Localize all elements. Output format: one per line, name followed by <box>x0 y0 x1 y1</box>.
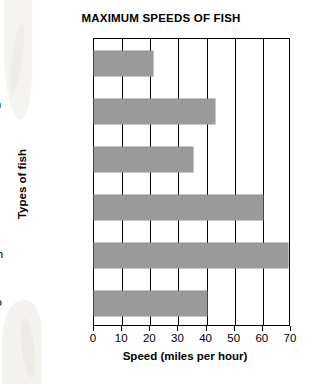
category-label-line: Flying <box>0 146 86 159</box>
bar-row <box>94 39 153 87</box>
bar <box>94 291 207 316</box>
x-axis-tick-label: 70 <box>275 332 305 344</box>
category-label: Marlin <box>0 200 86 213</box>
x-axis-tick-label: 10 <box>106 332 136 344</box>
bar <box>94 147 193 172</box>
x-axis-tick-label: 0 <box>78 332 108 344</box>
category-label-line: tuna <box>0 110 86 123</box>
category-label: Sailfish <box>0 248 86 261</box>
x-axis-tick <box>262 326 263 331</box>
category-label-line: Blue <box>0 50 86 63</box>
bar-row <box>94 183 263 231</box>
x-axis-tick <box>177 326 178 331</box>
category-label-line: Sailfish <box>0 248 86 261</box>
category-label-line: Bluefin <box>0 98 86 111</box>
x-axis-tick <box>234 326 235 331</box>
bar <box>94 99 215 124</box>
x-axis-tick-label: 40 <box>191 332 221 344</box>
bar <box>94 51 153 76</box>
category-label: Flyingfish <box>0 146 86 171</box>
x-axis-tick <box>290 326 291 331</box>
x-axis-tick <box>206 326 207 331</box>
category-label: Bluewhale <box>0 50 86 75</box>
category-label-line: Marlin <box>0 200 86 213</box>
bar-row <box>94 279 207 327</box>
x-axis-tick-label: 30 <box>162 332 192 344</box>
category-label-line: whale <box>0 62 86 75</box>
bar-row <box>94 135 193 183</box>
category-label-line: fish <box>0 158 86 171</box>
x-axis-tick-label: 20 <box>134 332 164 344</box>
bar-row <box>94 231 288 279</box>
category-label-line: Wahoo <box>0 296 86 309</box>
x-axis-tick <box>149 326 150 331</box>
x-axis-tick <box>121 326 122 331</box>
bar <box>94 243 288 268</box>
bar-row <box>94 87 215 135</box>
bar <box>94 195 263 220</box>
plot-area <box>93 38 290 326</box>
y-axis-title: Types of fish <box>16 124 28 244</box>
bars-layer <box>94 39 289 325</box>
category-label: Wahoo <box>0 296 86 309</box>
x-axis-tick-label: 60 <box>247 332 277 344</box>
category-label: Bluefintuna <box>0 98 86 123</box>
x-axis-tick <box>93 326 94 331</box>
bar-chart: MAXIMUM SPEEDS OF FISH BluewhaleBluefint… <box>0 0 322 384</box>
x-axis-title: Speed (miles per hour) <box>60 350 310 362</box>
chart-title: MAXIMUM SPEEDS OF FISH <box>0 12 322 24</box>
x-axis-tick-label: 50 <box>219 332 249 344</box>
